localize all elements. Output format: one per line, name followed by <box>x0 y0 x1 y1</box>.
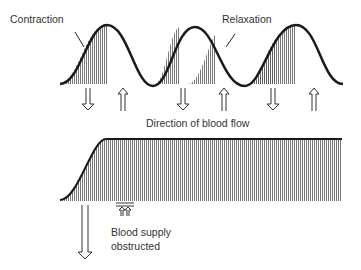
contraction-pointer <box>75 32 84 47</box>
up-arrow-icon <box>219 88 229 111</box>
blood-supply-label: Blood supply <box>111 226 171 238</box>
long-down-arrow-icon <box>78 205 92 259</box>
contraction-label: Contraction <box>10 13 64 25</box>
muscle-blood-flow-diagram <box>0 0 361 270</box>
obstruction-icon <box>116 203 134 216</box>
up-arrow-icon <box>309 88 319 111</box>
down-arrow-icon <box>177 88 189 110</box>
direction-of-blood-flow-label: Direction of blood flow <box>146 117 249 129</box>
relaxation-label: Relaxation <box>222 13 272 25</box>
up-arrow-icon <box>118 88 128 111</box>
sustained-contraction-hatching <box>60 139 342 201</box>
relaxation-pointer <box>226 34 235 47</box>
down-arrow-icon <box>82 88 94 110</box>
obstructed-label: obstructed <box>111 240 160 252</box>
down-arrow-icon <box>267 88 279 110</box>
